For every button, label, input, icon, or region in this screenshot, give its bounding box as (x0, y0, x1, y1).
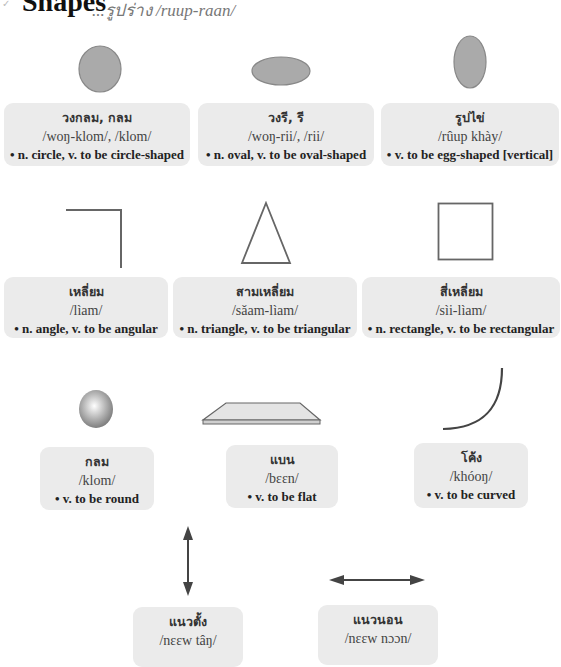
curve-shape-icon (440, 366, 506, 432)
phonetic: /woŋ-rii/, /rii/ (198, 127, 374, 146)
thai-word: แบน (226, 451, 338, 469)
phonetic: /klom/ (40, 471, 154, 490)
phonetic: /lìam/ (4, 301, 168, 320)
vocab-card-flat: แบน /bɛɛn/ • v. to be flat (226, 445, 338, 508)
sphere-shape-icon (77, 389, 115, 429)
thai-word: สามเหลี่ยม (173, 283, 357, 301)
phonetic: /sìi-lìam/ (362, 301, 560, 320)
page-subtitle: ...รูปร่าง /ruup-raan/ (92, 0, 235, 23)
phonetic: /bɛɛn/ (226, 469, 338, 488)
thai-word: สี่เหลี่ยม (362, 283, 560, 301)
definition: • n. circle, v. to be circle-shaped (4, 146, 190, 164)
definition: • n. rectangle, v. to be rectangular (362, 320, 560, 338)
phonetic: /nɛɛw tâŋ/ (133, 631, 243, 650)
thai-word: แนวตั้ง (133, 613, 243, 631)
vocab-card-circle: วงกลม, กลม /woŋ-klom/, /klom/ • n. circl… (4, 103, 190, 166)
vocab-card-round: กลม /klom/ • v. to be round (40, 447, 154, 510)
definition: • v. to be curved (414, 486, 528, 504)
vocab-card-angle: เหลี่ยม /lìam/ • n. angle, v. to be angu… (4, 277, 168, 338)
definition: • v. to be round (40, 490, 154, 508)
definition: • n. angle, v. to be angular (4, 320, 168, 338)
vocab-card-egg: รูปไข่ /rûup khày/ • v. to be egg-shaped… (381, 103, 559, 166)
definition: • v. to be egg-shaped [vertical] (381, 146, 559, 164)
flat-plate-shape-icon (200, 400, 324, 428)
vocab-card-curved: โค้ง /khóoŋ/ • v. to be curved (414, 443, 528, 508)
thai-word: วงกลม, กลม (4, 109, 190, 127)
thai-word: เหลี่ยม (4, 283, 168, 301)
vocab-card-horizontal: แนวนอน /nɛɛw nɔɔn/ (318, 605, 438, 665)
thai-word: รูปไข่ (381, 109, 559, 127)
vocab-card-oval: วงรี, รี /woŋ-rii/, /rii/ • n. oval, v. … (198, 103, 374, 166)
definition: • v. to be flat (226, 488, 338, 506)
square-shape-icon (437, 202, 495, 262)
vertical-arrow-icon (180, 526, 196, 596)
angle-shape-icon (64, 208, 124, 270)
thai-word: โค้ง (414, 449, 528, 467)
triangle-shape-icon (240, 201, 292, 265)
definition: • n. oval, v. to be oval-shaped (198, 146, 374, 164)
definition: • n. triangle, v. to be triangular (173, 320, 357, 338)
phonetic: /nɛɛw nɔɔn/ (318, 629, 438, 648)
horizontal-arrow-icon (329, 573, 425, 587)
circle-shape-icon (77, 44, 123, 94)
vocab-card-vertical: แนวตั้ง /nɛɛw tâŋ/ (133, 607, 243, 667)
vocab-card-rectangle: สี่เหลี่ยม /sìi-lìam/ • n. rectangle, v.… (362, 277, 560, 338)
phonetic: /khóoŋ/ (414, 467, 528, 486)
thai-word: วงรี, รี (198, 109, 374, 127)
egg-shape-icon (452, 34, 488, 90)
oval-shape-icon (250, 55, 312, 87)
phonetic: /woŋ-klom/, /klom/ (4, 127, 190, 146)
thai-word: แนวนอน (318, 611, 438, 629)
vocab-card-triangle: สามเหลี่ยม /sǎam-lìam/ • n. triangle, v.… (173, 277, 357, 338)
thai-word: กลม (40, 453, 154, 471)
bullet-icon: ✓ (2, 0, 10, 6)
phonetic: /sǎam-lìam/ (173, 301, 357, 320)
phonetic: /rûup khày/ (381, 127, 559, 146)
